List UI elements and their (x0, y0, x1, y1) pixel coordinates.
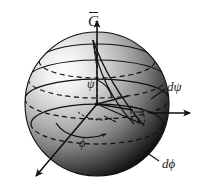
vertical-axis-label: G (88, 12, 99, 29)
origin-point (95, 102, 99, 106)
polar-differential-label: dψ (167, 80, 182, 93)
azimuthal-angle-label: ϕ (79, 136, 86, 149)
sphere-diagram-figure: G ψ ϕ dψ dϕ (0, 0, 201, 191)
polar-angle-label: ψ (87, 78, 94, 90)
azimuthal-differential-label: dϕ (162, 157, 175, 170)
vertical-axis-label-text: G (88, 13, 99, 29)
